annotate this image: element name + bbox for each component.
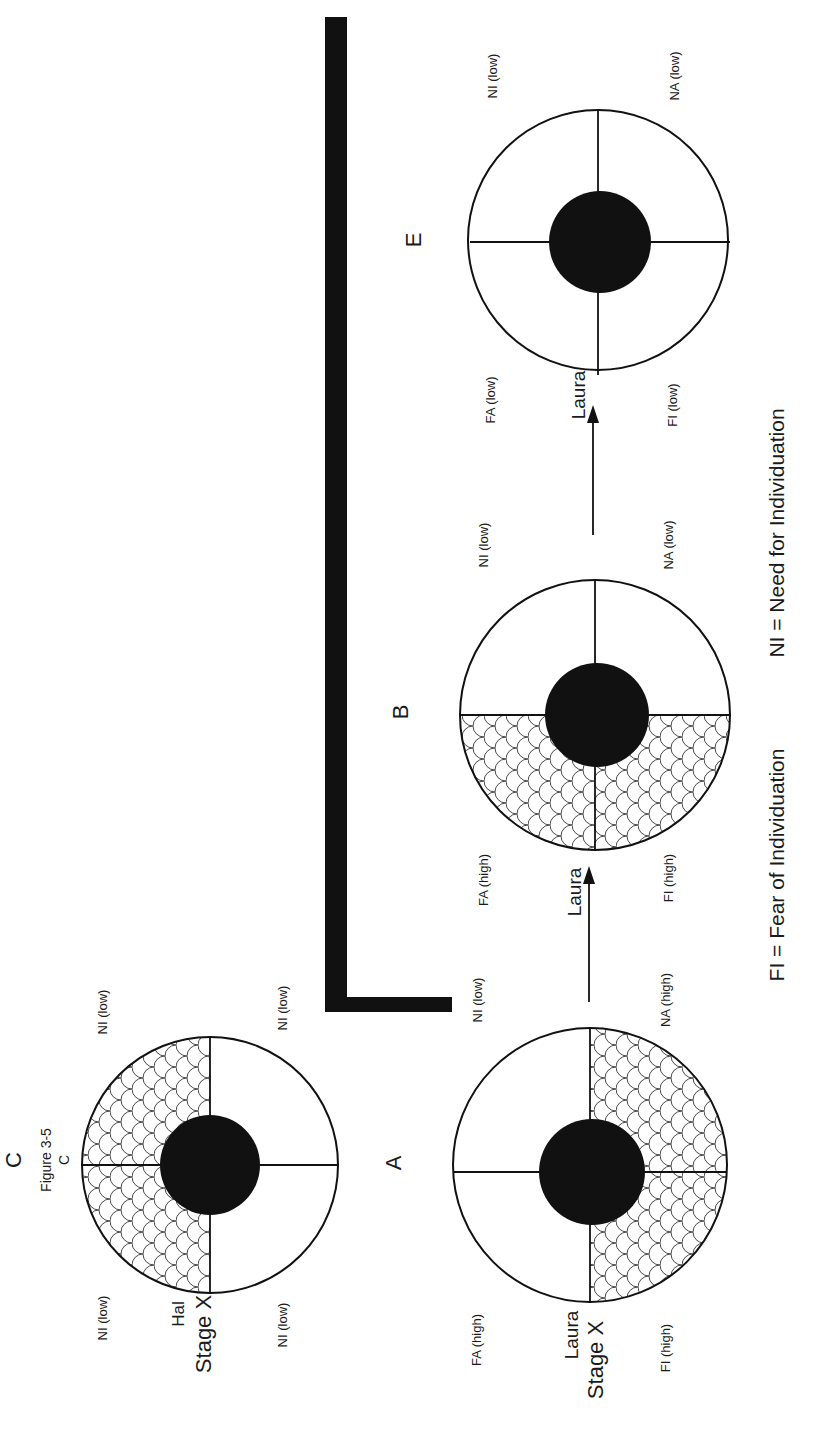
b-label-bottom-right: NA (low) bbox=[662, 520, 675, 569]
a-label-bottom-right: NA (high) bbox=[659, 973, 672, 1027]
a-label-bottom-left: FI (high) bbox=[659, 1324, 672, 1372]
a-label-top-right: NI (low) bbox=[471, 978, 484, 1023]
legend-ni: NI = Need for Individuation bbox=[766, 408, 787, 657]
c-label-top-right: NI (low) bbox=[96, 990, 109, 1035]
circle-e bbox=[468, 110, 730, 375]
e-label-bottom-left: FI (low) bbox=[666, 383, 679, 426]
e-arrow-label: Laura bbox=[569, 371, 588, 420]
c-stage-label: Stage X bbox=[193, 1295, 215, 1373]
e-label-top-right: NI (low) bbox=[486, 54, 499, 99]
b-label-bottom-left: FI (high) bbox=[662, 854, 675, 902]
c-label-top-left: NI (low) bbox=[96, 1296, 109, 1341]
divider-bar bbox=[325, 17, 452, 1012]
a-person-name: Laura bbox=[562, 1311, 581, 1360]
circle-c-hal bbox=[82, 1037, 338, 1293]
e-label-top-left: FA (low) bbox=[484, 377, 497, 424]
c-label-bottom-right: NI (low) bbox=[276, 986, 289, 1031]
arrow-b-to-e bbox=[587, 405, 599, 535]
panel-b-label: B bbox=[390, 705, 412, 720]
figure-title: Figure 3-5 bbox=[39, 1128, 53, 1192]
c-person-name: Hal bbox=[170, 1301, 187, 1327]
b-arrow-label: Laura bbox=[565, 868, 584, 917]
figure-subtitle: C bbox=[57, 1155, 71, 1165]
panel-c-heading: C bbox=[3, 1152, 25, 1168]
legend-fi: FI = Fear of Individuation bbox=[766, 749, 787, 982]
e-label-bottom-right: NA (low) bbox=[668, 51, 681, 100]
c-label-bottom-left: NI (low) bbox=[276, 1303, 289, 1348]
b-label-top-left: FA (high) bbox=[477, 854, 490, 906]
panel-e-label: E bbox=[403, 233, 425, 248]
panel-a-label: A bbox=[383, 1156, 405, 1171]
a-label-top-left: FA (high) bbox=[470, 1314, 483, 1366]
b-label-top-right: NI (low) bbox=[477, 523, 490, 568]
a-stage-label: Stage X bbox=[585, 1321, 607, 1399]
diagram-canvas bbox=[0, 0, 813, 1441]
circle-a-laura bbox=[453, 1028, 727, 1302]
arrow-a-to-b bbox=[583, 866, 595, 1002]
circle-b bbox=[460, 580, 730, 850]
